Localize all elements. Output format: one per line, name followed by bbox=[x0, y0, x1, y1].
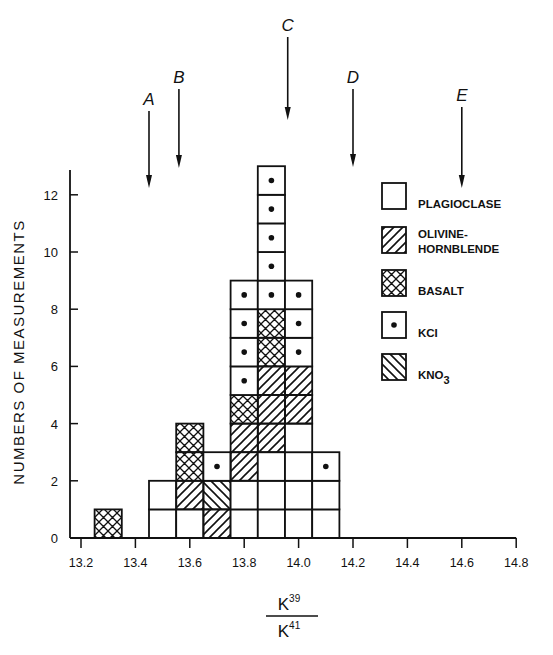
kcl-dot-icon bbox=[296, 349, 302, 355]
bar-cell-olivine bbox=[285, 395, 312, 424]
y-tick-label: 4 bbox=[51, 417, 58, 432]
kcl-dot-icon bbox=[269, 235, 275, 241]
kcl-dot-icon bbox=[241, 349, 247, 355]
bar-cell-olivine bbox=[285, 366, 312, 395]
bar-cell-basalt bbox=[258, 309, 285, 338]
annotation-arrows: ABCDE bbox=[142, 16, 468, 188]
svg-text:K41: K41 bbox=[278, 620, 301, 641]
bar-cell-plagioclase bbox=[285, 452, 312, 481]
kcl-dot-icon bbox=[241, 378, 247, 384]
legend-swatch-basalt bbox=[382, 270, 406, 296]
bar-cell-plagioclase bbox=[176, 509, 203, 538]
bar-cell-olivine bbox=[203, 509, 230, 538]
y-tick-label: 12 bbox=[44, 188, 58, 203]
bar-cell-plagioclase bbox=[258, 452, 285, 481]
histogram-chart: ABCDE 02468101213.213.413.613.814.014.21… bbox=[0, 0, 553, 655]
x-tick-label: 13.2 bbox=[69, 556, 93, 570]
arrow-label: C bbox=[282, 16, 295, 35]
bar-cell-kcl bbox=[285, 281, 312, 310]
x-tick-label: 14.8 bbox=[504, 556, 528, 570]
bar-cell-kno3 bbox=[203, 481, 230, 510]
bar-cell-basalt bbox=[176, 452, 203, 481]
bar-cell-kcl bbox=[258, 166, 285, 195]
bar-cell-plagioclase bbox=[258, 509, 285, 538]
x-tick-label: 13.4 bbox=[123, 556, 147, 570]
x-tick-label: 14.6 bbox=[450, 556, 474, 570]
legend-label: HORNBLENDE bbox=[418, 243, 499, 255]
x-tick-label: 14.0 bbox=[286, 556, 310, 570]
bar-cell-olivine bbox=[258, 424, 285, 453]
x-axis-label: K39 K41 bbox=[266, 593, 318, 641]
legend-item-olivine: OLIVINE-HORNBLENDE bbox=[382, 227, 499, 255]
arrow-d-icon: D bbox=[347, 68, 359, 167]
x-tick-label: 13.6 bbox=[178, 556, 202, 570]
x-label-denominator: K bbox=[278, 622, 290, 641]
y-tick-label: 6 bbox=[51, 359, 58, 374]
bar-cell-kcl bbox=[203, 452, 230, 481]
kcl-dot-icon bbox=[391, 322, 397, 328]
bar-cell-kcl bbox=[258, 195, 285, 224]
bar-cell-basalt bbox=[258, 338, 285, 367]
bar-cell-olivine bbox=[231, 424, 258, 453]
svg-text:K39: K39 bbox=[278, 593, 301, 614]
x-tick-label: 14.4 bbox=[395, 556, 419, 570]
legend-swatch-plagioclase bbox=[382, 183, 406, 209]
bar-cell-plagioclase bbox=[312, 481, 339, 510]
histogram-column bbox=[285, 281, 312, 538]
bar-cell-plagioclase bbox=[285, 481, 312, 510]
bar-cell-plagioclase bbox=[231, 509, 258, 538]
bar-cell-kcl bbox=[258, 281, 285, 310]
bar-cell-basalt bbox=[95, 509, 122, 538]
bar-cell-olivine bbox=[258, 395, 285, 424]
legend-label: KNO3 bbox=[418, 369, 450, 386]
legend-item-plagioclase: PLAGIOCLASE bbox=[382, 183, 501, 210]
kcl-dot-icon bbox=[323, 464, 329, 470]
bar-cell-basalt bbox=[176, 424, 203, 453]
legend-item-basalt: BASALT bbox=[382, 270, 464, 297]
kcl-dot-icon bbox=[296, 321, 302, 327]
bar-cell-olivine bbox=[176, 481, 203, 510]
bar-cell-kcl bbox=[231, 309, 258, 338]
legend-swatch-kcl bbox=[382, 312, 406, 338]
legend-label: OLIVINE- bbox=[418, 228, 468, 240]
bar-cell-plagioclase bbox=[285, 424, 312, 453]
arrow-c-icon: C bbox=[282, 16, 295, 120]
bar-cell-kcl bbox=[231, 366, 258, 395]
x-tick-label: 14.2 bbox=[341, 556, 365, 570]
arrow-b-icon: B bbox=[173, 68, 184, 168]
kcl-dot-icon bbox=[296, 292, 302, 298]
bar-cell-basalt bbox=[231, 395, 258, 424]
kcl-dot-icon bbox=[269, 292, 275, 298]
histogram-bars bbox=[95, 166, 340, 538]
y-tick-label: 2 bbox=[51, 474, 58, 489]
kcl-dot-icon bbox=[269, 264, 275, 270]
legend-label: PLAGIOCLASE bbox=[418, 198, 501, 210]
legend-label: KCI bbox=[418, 327, 438, 339]
arrow-label: B bbox=[173, 68, 184, 87]
bar-cell-kcl bbox=[231, 338, 258, 367]
histogram-column bbox=[312, 452, 339, 538]
y-axis-label: NUMBERS OF MEASUREMENTS bbox=[10, 219, 27, 484]
kcl-dot-icon bbox=[269, 178, 275, 184]
bar-cell-olivine bbox=[231, 452, 258, 481]
y-tick-label: 8 bbox=[51, 302, 58, 317]
bar-cell-plagioclase bbox=[312, 509, 339, 538]
legend: PLAGIOCLASEOLIVINE-HORNBLENDEBASALTKCIKN… bbox=[382, 183, 501, 386]
arrow-label: A bbox=[142, 90, 154, 109]
y-tick-label: 10 bbox=[44, 245, 58, 260]
x-label-numerator-sup: 39 bbox=[289, 593, 301, 604]
legend-item-kcl: KCI bbox=[382, 312, 438, 339]
bar-cell-plagioclase bbox=[231, 481, 258, 510]
bar-cell-kcl bbox=[258, 252, 285, 281]
arrow-label: D bbox=[347, 68, 359, 87]
bar-cell-plagioclase bbox=[149, 481, 176, 510]
kcl-dot-icon bbox=[214, 464, 220, 470]
x-label-denominator-sup: 41 bbox=[289, 620, 301, 631]
arrow-a-icon: A bbox=[142, 90, 154, 188]
histogram-column bbox=[203, 452, 230, 538]
kcl-dot-icon bbox=[241, 321, 247, 327]
histogram-column bbox=[231, 281, 258, 538]
bar-cell-kcl bbox=[285, 309, 312, 338]
kcl-dot-icon bbox=[241, 292, 247, 298]
histogram-column bbox=[95, 509, 122, 538]
